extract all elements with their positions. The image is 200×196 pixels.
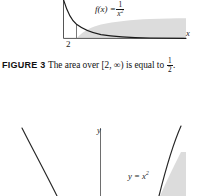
parabola-left-branch	[22, 128, 57, 196]
shaded-region-right	[160, 152, 186, 196]
formula-denominator-exponent: 2	[121, 8, 124, 14]
caption-fraction-denominator: 2	[167, 66, 173, 73]
figure-caption: FIGURE 3The area over [2, ∞) is equal to…	[2, 57, 199, 73]
curve-formula-text: f(x) =	[95, 4, 116, 14]
formula-fraction: 1x2	[116, 1, 124, 18]
figure-page: f(x) =1x2 x 2 FIGURE 3The area over [2, …	[0, 0, 200, 196]
next-figure-plot	[0, 96, 200, 196]
x-axis-label: x	[186, 29, 190, 38]
caption-fraction: 12	[167, 57, 173, 73]
caption-fraction-numerator: 1	[167, 57, 173, 64]
figure-caption-text: The area over [2, ∞) is equal to	[48, 60, 164, 70]
curve-formula-label: f(x) =1x2	[95, 1, 125, 18]
parabola-curve-label: y = x2	[128, 172, 149, 181]
y-axis-label-bottom: y	[97, 126, 101, 135]
parabola-label-exponent: 2	[146, 170, 149, 176]
shaded-area-region	[77, 18, 187, 38]
x-tick-label-2: 2	[66, 40, 71, 49]
parabola-label-text: y = x	[128, 171, 146, 181]
formula-fraction-denominator: x2	[116, 10, 124, 18]
figure-caption-period: .	[173, 60, 175, 70]
figure-caption-tag: FIGURE 3	[2, 60, 46, 70]
